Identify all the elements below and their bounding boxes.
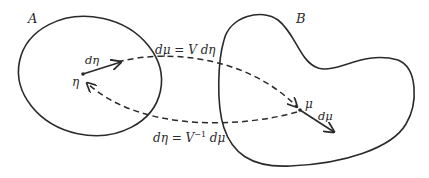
diagram-canvas: A B η dη μ dμ dμ = V dη dη = V−1 dμ: [0, 0, 429, 178]
inverse-map-label: dη = V−1 dμ: [153, 130, 226, 145]
forward-map-curve: [118, 56, 297, 107]
d-mu-label: dμ: [318, 109, 333, 123]
inverse-map-label-tail: dμ: [206, 131, 225, 145]
mu-point: [298, 108, 302, 112]
region-b-boundary: [219, 14, 414, 166]
eta-point: [81, 72, 85, 76]
forward-map-label: dμ = V dη: [155, 43, 216, 57]
inverse-map-label-main: dη = V: [153, 131, 196, 145]
inverse-map-curve: [87, 83, 297, 123]
region-b-label: B: [295, 11, 306, 26]
mu-label: μ: [305, 97, 313, 111]
d-eta-label: dη: [85, 53, 99, 67]
inverse-map-label-superscript: −1: [194, 130, 206, 139]
region-a-label: A: [27, 11, 37, 26]
eta-label: η: [72, 75, 80, 89]
